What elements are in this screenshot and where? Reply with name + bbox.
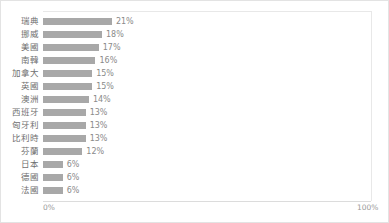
bar-category-label: 加拿大 — [0, 67, 39, 80]
bar-category-label: 德國 — [0, 171, 39, 184]
x-axis-tick-0: 0% — [43, 203, 55, 212]
bar — [43, 70, 92, 77]
bar — [43, 57, 95, 64]
bar-row: 芬蘭12% — [1, 145, 389, 158]
bar — [43, 187, 63, 194]
bar-category-label: 瑞典 — [0, 15, 39, 28]
bar-row: 加拿大15% — [1, 67, 389, 80]
bar-value-label: 15% — [96, 80, 114, 93]
bar-chart: 瑞典21%挪威18%美國17%南韓16%加拿大15%英國15%澳洲14%西班牙1… — [0, 0, 389, 223]
bar-category-label: 匈牙利 — [0, 119, 39, 132]
bar-value-label: 6% — [67, 171, 80, 184]
bar-value-label: 17% — [103, 41, 121, 54]
bar-value-label: 6% — [67, 158, 80, 171]
bar-category-label: 挪威 — [0, 28, 39, 41]
x-axis-tick-100: 100% — [357, 203, 378, 212]
bar — [43, 96, 89, 103]
bar — [43, 31, 102, 38]
bar — [43, 161, 63, 168]
bar-row: 南韓16% — [1, 54, 389, 67]
bar-row: 瑞典21% — [1, 15, 389, 28]
bar-category-label: 南韓 — [0, 54, 39, 67]
bar-category-label: 英國 — [0, 80, 39, 93]
bar-category-label: 芬蘭 — [0, 145, 39, 158]
plot-baseline-axis — [43, 201, 371, 202]
bar-row: 德國6% — [1, 171, 389, 184]
bar-value-label: 13% — [90, 119, 108, 132]
bar-value-label: 14% — [93, 93, 111, 106]
bar — [43, 174, 63, 181]
bar-row: 比利時13% — [1, 132, 389, 145]
bar-value-label: 16% — [99, 54, 117, 67]
bar-row: 西班牙13% — [1, 106, 389, 119]
bar-row: 匈牙利13% — [1, 119, 389, 132]
bar — [43, 148, 82, 155]
bar — [43, 109, 86, 116]
bar-category-label: 日本 — [0, 158, 39, 171]
bar-value-label: 6% — [67, 184, 80, 197]
bar-row: 美國17% — [1, 41, 389, 54]
bar-value-label: 21% — [116, 15, 134, 28]
bar — [43, 83, 92, 90]
bar-value-label: 13% — [90, 106, 108, 119]
bar-value-label: 12% — [86, 145, 104, 158]
bar-category-label: 法國 — [0, 184, 39, 197]
plot-top-gridline — [43, 11, 371, 12]
bar-row: 法國6% — [1, 184, 389, 197]
bar-value-label: 15% — [96, 67, 114, 80]
bar — [43, 44, 99, 51]
bar — [43, 18, 112, 25]
bar-value-label: 13% — [90, 132, 108, 145]
bar-row: 挪威18% — [1, 28, 389, 41]
bar-category-label: 西班牙 — [0, 106, 39, 119]
bar-row: 日本6% — [1, 158, 389, 171]
bar — [43, 135, 86, 142]
bar-value-label: 18% — [106, 28, 124, 41]
bar-category-label: 美國 — [0, 41, 39, 54]
bar — [43, 122, 86, 129]
bar-category-label: 澳洲 — [0, 93, 39, 106]
bar-row: 英國15% — [1, 80, 389, 93]
bar-category-label: 比利時 — [0, 132, 39, 145]
bar-row: 澳洲14% — [1, 93, 389, 106]
